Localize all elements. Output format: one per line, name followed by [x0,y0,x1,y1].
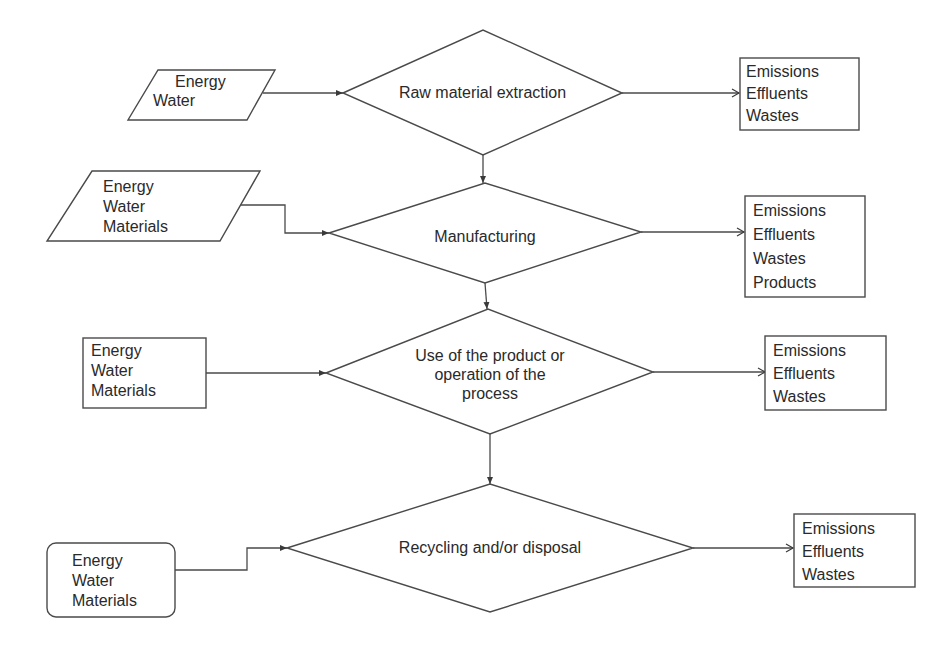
output-item: Effluents [753,223,826,247]
input-item: Water [153,91,226,110]
input-item: Energy [103,177,168,197]
output-item: Emissions [773,339,846,362]
output-list-recycling: Emissions Effluents Wastes [802,517,875,586]
stage-label-line: operation of the [380,365,600,384]
input-item: Materials [91,381,156,401]
input-list-raw: Energy Water [175,72,226,110]
connector-input-recycling [175,548,287,570]
output-item: Emissions [753,199,826,223]
output-item: Effluents [773,362,846,385]
input-item: Water [103,197,168,217]
output-item: Emissions [746,61,819,83]
output-item: Wastes [802,563,875,586]
input-item: Water [72,571,137,591]
connector-manufacturing-to-use [485,283,487,309]
output-item: Effluents [802,540,875,563]
output-list-raw: Emissions Effluents Wastes [746,61,819,127]
stage-label-line: process [380,384,600,403]
output-item: Effluents [746,83,819,105]
stage-label-recycling: Recycling and/or disposal [287,538,693,557]
input-item: Materials [72,591,137,611]
input-item: Energy [72,551,137,571]
input-list-recycling: Energy Water Materials [72,551,137,611]
input-list-use: Energy Water Materials [91,341,156,401]
input-list-manufacturing: Energy Water Materials [103,177,168,237]
stage-label-use: Use of the product or operation of the p… [380,346,600,403]
stage-label-line: Use of the product or [380,346,600,365]
output-item: Emissions [802,517,875,540]
output-item: Products [753,271,826,295]
output-item: Wastes [773,385,846,408]
connector-input-manufacturing [241,205,329,233]
output-item: Wastes [753,247,826,271]
stage-label-raw: Raw material extraction [343,83,622,102]
output-list-manufacturing: Emissions Effluents Wastes Products [753,199,826,295]
output-list-use: Emissions Effluents Wastes [773,339,846,408]
stage-label-manufacturing: Manufacturing [329,227,641,246]
input-item: Energy [91,341,156,361]
input-item: Materials [103,217,168,237]
input-item: Water [91,361,156,381]
output-item: Wastes [746,105,819,127]
input-item: Energy [175,72,226,91]
